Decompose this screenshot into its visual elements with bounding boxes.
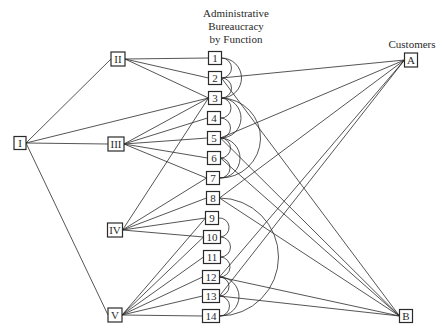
node-label: 12 [206, 271, 217, 283]
node-11: 11 [204, 251, 221, 264]
arc-2-3 [222, 78, 232, 98]
node-12: 12 [203, 271, 220, 284]
node-1: 1 [209, 52, 222, 65]
arc-1-2 [222, 58, 232, 78]
node-I: I [14, 137, 26, 150]
node-label: 7 [210, 172, 216, 184]
node-10: 10 [204, 231, 221, 244]
edge-I-V [26, 143, 108, 315]
node-II: II [111, 52, 125, 66]
edge-III-5 [124, 138, 208, 144]
edge-B-2 [222, 78, 400, 316]
edge-I-3 [26, 98, 209, 143]
arc-8-14 [220, 198, 279, 316]
edge-A-8 [220, 60, 405, 198]
node-V: V [108, 308, 122, 322]
edge-B-12 [220, 277, 400, 316]
edge-II-3 [125, 59, 209, 98]
node-label: 13 [206, 290, 218, 302]
edge-III-7 [124, 144, 207, 178]
node-label: II [114, 53, 122, 65]
node-14: 14 [203, 310, 220, 323]
node-label: 2 [212, 72, 218, 84]
edge-IV-8 [123, 198, 207, 230]
node-13: 13 [203, 290, 220, 303]
node-A: A [405, 53, 418, 67]
edge-B-13 [220, 296, 400, 316]
edge-B-8 [220, 198, 400, 316]
edge-IV-10 [123, 230, 204, 237]
arc-3-7 [220, 98, 261, 178]
node-label: 6 [211, 152, 217, 164]
node-label: 1 [212, 52, 218, 64]
edge-B-5 [221, 138, 400, 316]
node-label: 14 [206, 310, 218, 322]
node-5: 5 [208, 132, 221, 145]
edge-I-III [26, 143, 108, 144]
edge-A-2 [222, 60, 405, 78]
customers-label: Customers [388, 38, 435, 50]
edge-III-6 [124, 144, 208, 158]
node-IV: IV [108, 223, 123, 237]
edge-IV-7 [123, 178, 207, 230]
edge-V-12 [122, 277, 203, 315]
node-B: B [400, 310, 413, 323]
edge-IV-9 [123, 218, 206, 230]
node-7: 7 [207, 172, 220, 185]
title-line-1: Administrative [203, 7, 269, 19]
edge-V-9 [122, 218, 206, 315]
node-label: 5 [211, 132, 217, 144]
edge-IV-3 [123, 98, 209, 230]
node-label: 3 [212, 92, 218, 104]
arc-4-5 [221, 118, 231, 138]
arc-5-6 [221, 138, 231, 158]
arc-12-13 [220, 277, 230, 296]
node-label: 9 [209, 212, 215, 224]
node-6: 6 [208, 152, 221, 165]
arc-13-14 [220, 296, 230, 316]
node-label: B [402, 310, 409, 322]
node-label: IV [109, 224, 121, 236]
edge-V-13 [122, 296, 203, 315]
node-8: 8 [207, 192, 220, 205]
node-2: 2 [209, 72, 222, 85]
edge-V-10 [122, 237, 204, 315]
edge-II-1 [125, 58, 209, 59]
edge-A-12 [220, 60, 405, 277]
node-4: 4 [208, 112, 221, 125]
node-III: III [108, 137, 124, 151]
edge-III-3 [124, 98, 209, 144]
node-label: 11 [207, 251, 218, 263]
node-label: 4 [211, 112, 217, 124]
node-label: A [407, 54, 415, 66]
arc-10-11 [221, 237, 231, 257]
edge-V-11 [122, 257, 204, 315]
node-label: V [111, 309, 119, 321]
bureaucracy-network-diagram: 1234567891011121314IIIIIIIVVAB Administr… [0, 0, 442, 333]
edge-V-14 [122, 315, 203, 316]
edge-A-5 [221, 60, 405, 138]
nodes-layer: 1234567891011121314IIIIIIIVVAB [14, 52, 418, 323]
edge-III-4 [124, 118, 208, 144]
title-line-2: Bureaucracy [208, 20, 264, 32]
node-label: 8 [210, 192, 216, 204]
node-3: 3 [209, 92, 222, 105]
title-line-3: by Function [210, 33, 263, 45]
edge-B-6 [221, 158, 400, 316]
node-label: III [111, 138, 122, 150]
node-9: 9 [206, 212, 219, 225]
node-label: I [18, 137, 22, 149]
edge-II-2 [125, 59, 209, 78]
edge-I-II [26, 59, 111, 143]
node-label: 10 [207, 231, 219, 243]
edge-A-13 [220, 60, 405, 296]
